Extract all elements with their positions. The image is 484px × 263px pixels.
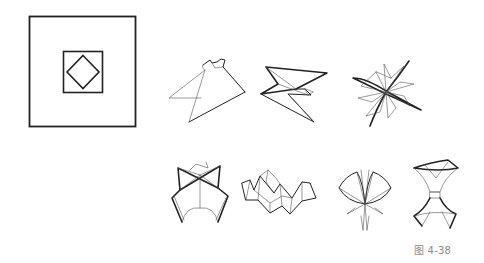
wavy-ridge-fold-icon <box>240 168 325 228</box>
arrowhead-fold-icon <box>258 62 338 122</box>
folded-form-5 <box>240 168 325 228</box>
square-diamond-pattern-icon <box>0 0 170 140</box>
flower-petal-fold-icon <box>335 168 400 238</box>
folded-form-6 <box>335 168 400 238</box>
folded-form-7 <box>410 160 465 240</box>
vase-fold-icon <box>170 160 235 235</box>
folded-form-3 <box>345 50 425 130</box>
pattern-diagram <box>0 0 170 140</box>
folded-form-2 <box>258 62 338 122</box>
triangular-fold-icon <box>165 55 245 130</box>
folded-form-1 <box>165 55 245 130</box>
hourglass-fold-icon <box>410 160 465 240</box>
figure-caption: 图 4-38 <box>414 242 451 257</box>
folded-form-4 <box>170 160 235 235</box>
star-pinwheel-fold-icon <box>345 50 425 130</box>
